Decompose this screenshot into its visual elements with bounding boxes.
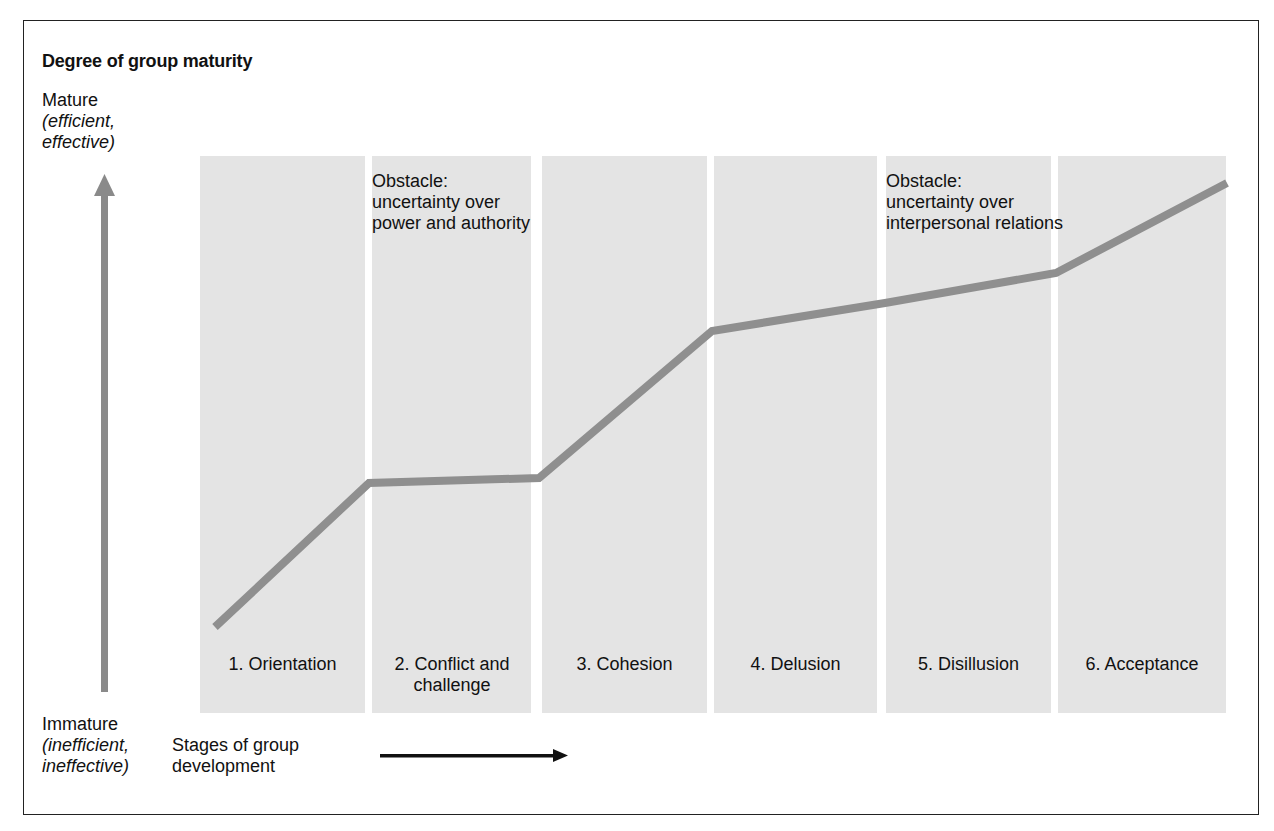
stage-2-text-line-1: 2. Conflict and [366,654,538,675]
stage-label-conflict: 2. Conflict and challenge [366,654,538,696]
stage-6-text: 6. Acceptance [1058,654,1226,675]
stage-label-acceptance: 6. Acceptance [1058,654,1226,675]
stage-5-text: 5. Disillusion [886,654,1051,675]
stage-4-text: 4. Delusion [714,654,877,675]
x-axis-label-line-2: development [172,756,299,777]
stage-3-text: 3. Cohesion [542,654,707,675]
maturity-line [215,183,1227,627]
chart-graphics [0,0,1274,831]
stage-label-delusion: 4. Delusion [714,654,877,675]
stage-label-orientation: 1. Orientation [200,654,365,675]
stage-label-cohesion: 3. Cohesion [542,654,707,675]
x-axis-label-line-1: Stages of group [172,735,299,756]
stage-2-text-line-2: challenge [366,675,538,696]
stage-1-text: 1. Orientation [200,654,365,675]
maturity-up-arrow-icon [94,174,115,692]
stages-right-arrow-icon [380,749,568,762]
stage-label-disillusion: 5. Disillusion [886,654,1051,675]
x-axis-label: Stages of group development [172,735,299,777]
